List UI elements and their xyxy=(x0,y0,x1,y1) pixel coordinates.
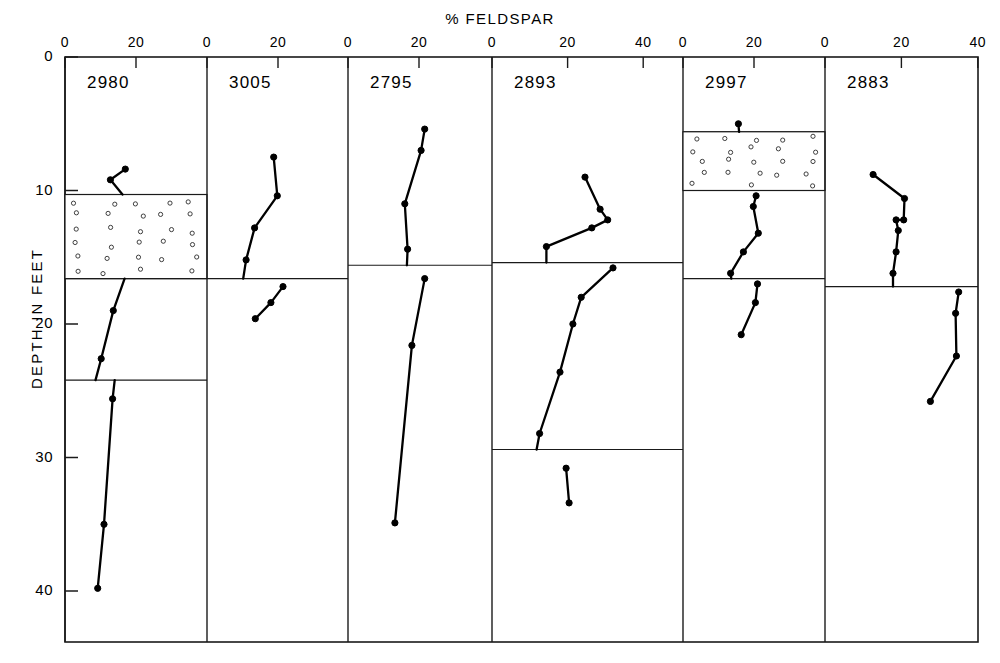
x-tick-label-2795-0: 0 xyxy=(328,34,368,50)
data-point-2980-middle-1 xyxy=(110,308,116,314)
y-tick-label-30: 30 xyxy=(13,448,53,465)
data-point-2980-upper-0 xyxy=(122,166,128,172)
data-point-2795-upper-3 xyxy=(405,246,411,252)
data-point-2893-lower-0 xyxy=(610,265,616,271)
data-point-2883-upper-4 xyxy=(895,227,901,233)
data-point-2893-lower-2 xyxy=(570,321,576,327)
x-tick-label-2883-40: 40 xyxy=(958,34,998,50)
series-line-2893-basal xyxy=(566,468,569,503)
x-tick-label-3005-0: 0 xyxy=(187,34,227,50)
data-point-2883-lower-0 xyxy=(956,289,962,295)
x-tick-label-2795-20: 20 xyxy=(399,34,439,50)
data-point-3005-lower-1 xyxy=(268,300,274,306)
series-line-2893-lower xyxy=(537,268,613,450)
panel-label-2893: 2893 xyxy=(514,73,557,93)
panel-label-2997: 2997 xyxy=(705,73,748,93)
data-point-2795-upper-0 xyxy=(422,126,428,132)
data-point-2883-upper-3 xyxy=(893,217,899,223)
data-point-2997-middle-1 xyxy=(750,203,756,209)
x-tick-label-2883-20: 20 xyxy=(881,34,921,50)
series-line-2980-middle xyxy=(96,279,125,381)
series-line-2893-upper xyxy=(546,177,607,263)
data-point-2883-lower-3 xyxy=(927,398,933,404)
data-point-2997-middle-2 xyxy=(755,230,761,236)
panel-label-3005: 3005 xyxy=(229,73,272,93)
data-point-2980-lower-1 xyxy=(110,396,116,402)
data-point-2883-upper-2 xyxy=(901,217,907,223)
data-point-3005-upper-2 xyxy=(252,225,258,231)
x-tick-label-2997-20: 20 xyxy=(734,34,774,50)
data-point-2893-basal-0 xyxy=(563,465,569,471)
y-tick-label-40: 40 xyxy=(13,581,53,598)
data-point-2795-lower-1 xyxy=(409,342,415,348)
y-tick-label-20: 20 xyxy=(13,314,53,331)
data-point-2980-lower-2 xyxy=(101,521,107,527)
data-point-2893-lower-1 xyxy=(578,294,584,300)
data-point-2997-lower-1 xyxy=(752,300,758,306)
data-point-2883-upper-0 xyxy=(870,171,876,177)
data-point-3005-upper-3 xyxy=(243,257,249,263)
x-tick-label-2980-0: 0 xyxy=(45,34,85,50)
data-point-2997-middle-3 xyxy=(740,249,746,255)
data-point-2795-lower-0 xyxy=(422,276,428,282)
data-point-2883-upper-6 xyxy=(890,270,896,276)
series-line-2795-lower xyxy=(395,279,425,523)
data-point-2893-upper-2 xyxy=(605,217,611,223)
series-line-2980-lower xyxy=(98,380,115,588)
data-point-2893-upper-0 xyxy=(582,174,588,180)
x-tick-label-3005-20: 20 xyxy=(258,34,298,50)
x-tick-label-2997-0: 0 xyxy=(663,34,703,50)
feldspar-depth-figure: % FELDSPAR DEPTH IN FEET 010203040020298… xyxy=(0,0,1000,663)
data-point-2883-lower-2 xyxy=(953,353,959,359)
data-point-2795-upper-1 xyxy=(418,147,424,153)
plot-canvas xyxy=(0,0,1000,663)
series-line-2997-lower xyxy=(741,284,757,335)
plot-frame xyxy=(65,57,978,642)
data-point-2883-upper-1 xyxy=(901,195,907,201)
data-point-2893-upper-3 xyxy=(589,225,595,231)
lithology-band-2980 xyxy=(65,195,207,279)
data-point-2795-upper-2 xyxy=(402,201,408,207)
data-point-2997-lower-0 xyxy=(754,281,760,287)
x-tick-label-2893-40: 40 xyxy=(623,34,663,50)
x-tick-label-2883-0: 0 xyxy=(805,34,845,50)
data-point-2980-lower-3 xyxy=(95,585,101,591)
data-point-2883-upper-5 xyxy=(893,249,899,255)
data-point-2893-lower-3 xyxy=(557,369,563,375)
data-point-2980-middle-2 xyxy=(98,356,104,362)
panel-label-2883: 2883 xyxy=(847,73,890,93)
data-point-2893-lower-4 xyxy=(537,430,543,436)
data-point-2980-upper-1 xyxy=(107,177,113,183)
data-point-3005-lower-0 xyxy=(280,284,286,290)
data-point-3005-lower-2 xyxy=(252,316,258,322)
data-point-2997-middle-4 xyxy=(728,270,734,276)
data-point-2893-upper-1 xyxy=(597,206,603,212)
x-tick-label-2893-0: 0 xyxy=(472,34,512,50)
data-point-2997-top-0 xyxy=(735,121,741,127)
panel-label-2795: 2795 xyxy=(370,73,413,93)
data-point-2795-lower-2 xyxy=(392,520,398,526)
data-point-2893-upper-4 xyxy=(543,244,549,250)
lithology-band-2997 xyxy=(683,132,825,191)
panel-label-2980: 2980 xyxy=(87,73,130,93)
data-point-2997-middle-0 xyxy=(753,193,759,199)
data-point-2997-lower-2 xyxy=(738,332,744,338)
y-tick-label-10: 10 xyxy=(13,181,53,198)
x-tick-label-2980-20: 20 xyxy=(116,34,156,50)
data-point-3005-upper-0 xyxy=(271,154,277,160)
data-point-2893-basal-1 xyxy=(566,500,572,506)
x-tick-label-2893-20: 20 xyxy=(548,34,588,50)
series-line-2883-lower xyxy=(930,292,958,401)
data-point-2883-lower-1 xyxy=(953,310,959,316)
data-point-3005-upper-1 xyxy=(274,193,280,199)
